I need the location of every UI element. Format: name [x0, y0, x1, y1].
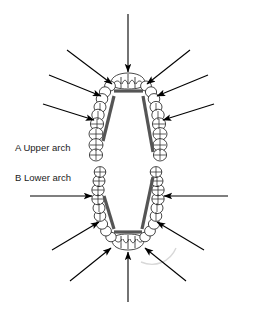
upper-anterior-teeth: [111, 73, 145, 89]
lower-anterior-teeth: [112, 234, 144, 250]
upper-arch-label: A Upper arch: [15, 142, 70, 153]
lower-arch-label: B Lower arch: [15, 172, 71, 183]
dental-arch-force-diagram: A Upper arch B Lower arch: [0, 0, 256, 315]
diagram-canvas: A Upper arch B Lower arch: [0, 0, 256, 315]
